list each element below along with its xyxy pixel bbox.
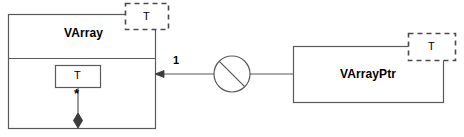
association-arrowhead-icon	[155, 71, 164, 78]
varray-class-name: VArray	[64, 27, 103, 39]
varrayptr-class-name: VArrayPtr	[340, 68, 396, 80]
composition-multiplicity-label: *	[74, 87, 79, 100]
varray-element-type-label: T	[74, 70, 81, 81]
varray-template-parameter-label: T	[143, 11, 150, 22]
uml-diagram: VArray T T * 1 VArrayPtr T	[0, 0, 464, 137]
association-source-multiplicity-label: 1	[173, 55, 179, 66]
varrayptr-template-parameter-label: T	[428, 41, 435, 52]
